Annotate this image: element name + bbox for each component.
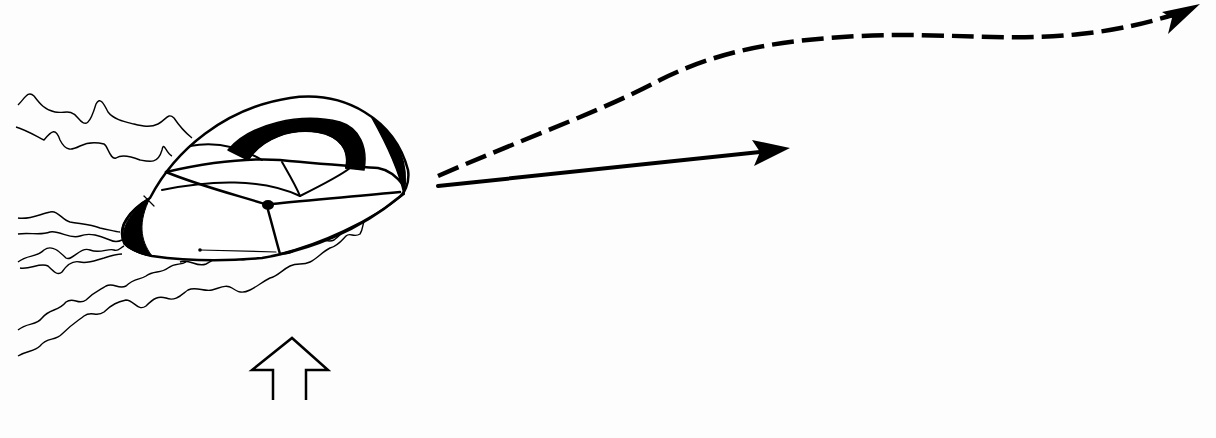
upward-flow-arrow	[252, 338, 328, 400]
diagram-canvas	[0, 0, 1216, 438]
canopy-body	[122, 97, 409, 260]
diagram-svg	[0, 0, 1216, 438]
curved-dashed-trajectory-arrow	[438, 4, 1200, 176]
straight-trajectory-arrow	[438, 140, 790, 186]
